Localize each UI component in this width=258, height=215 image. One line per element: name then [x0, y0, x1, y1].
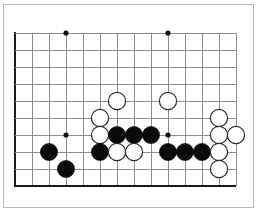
hoshi-point-2	[63, 132, 68, 137]
hoshi-point-1	[165, 30, 170, 35]
black-stone-7-6[interactable]	[125, 126, 142, 143]
white-stone-5-6[interactable]	[91, 126, 108, 143]
white-stone-12-7[interactable]	[210, 143, 227, 160]
white-stone-12-6[interactable]	[210, 126, 227, 143]
black-stone-11-7[interactable]	[193, 143, 210, 160]
black-stone-8-6[interactable]	[142, 126, 159, 143]
white-stone-6-4[interactable]	[108, 92, 125, 109]
hoshi-point-3	[165, 132, 170, 137]
go-board-canvas[interactable]	[0, 0, 258, 215]
white-stone-13-6[interactable]	[227, 126, 244, 143]
white-stone-9-4[interactable]	[159, 92, 176, 109]
screenshot-root	[0, 0, 258, 215]
black-stone-10-7[interactable]	[176, 143, 193, 160]
white-stone-7-7[interactable]	[125, 143, 142, 160]
grid-layer	[14, 32, 236, 187]
black-stone-9-7[interactable]	[159, 143, 176, 160]
go-board[interactable]	[0, 0, 258, 215]
black-stone-5-7[interactable]	[91, 143, 108, 160]
white-stone-12-8[interactable]	[210, 160, 227, 177]
white-stone-5-5[interactable]	[91, 109, 108, 126]
hoshi-point-0	[63, 30, 68, 35]
black-stone-3-8[interactable]	[57, 160, 74, 177]
black-stone-6-6[interactable]	[108, 126, 125, 143]
white-stone-12-5[interactable]	[210, 109, 227, 126]
white-stone-6-7[interactable]	[108, 143, 125, 160]
black-stone-2-7[interactable]	[40, 143, 57, 160]
